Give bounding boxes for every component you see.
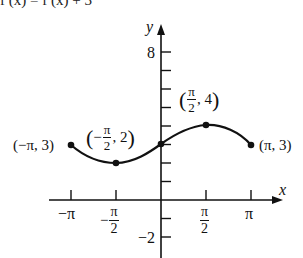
frac-den: 2 bbox=[111, 221, 118, 236]
point-value: , 2 bbox=[112, 129, 127, 145]
point-pi bbox=[248, 142, 255, 149]
y-tick-label-8: 8 bbox=[147, 45, 155, 61]
frac-num: π bbox=[187, 85, 196, 100]
point-zero bbox=[158, 141, 165, 148]
annotation-neg-pi-3: (−π, 3) bbox=[13, 138, 54, 153]
point-neg-half-pi bbox=[113, 160, 120, 167]
annotation-pi-3: (π, 3) bbox=[259, 138, 292, 153]
x-axis-label: x bbox=[279, 182, 286, 198]
chart-plot bbox=[0, 0, 303, 258]
frac-num: π bbox=[200, 205, 209, 221]
point-half-pi bbox=[203, 122, 210, 129]
y-axis-label: y bbox=[146, 19, 153, 35]
frac-num: π bbox=[109, 205, 118, 221]
annotation-half-pi-4: (π2, 4) bbox=[179, 85, 219, 114]
y-axis-arrow-icon bbox=[157, 24, 165, 35]
x-tick-label-pi: π bbox=[245, 206, 253, 222]
x-tick-label-neg-half-pi: −π2 bbox=[100, 205, 120, 236]
frac-den: 2 bbox=[188, 100, 195, 114]
annotation-neg-half-pi-2: (−π2, 2) bbox=[86, 123, 135, 152]
point-neg-pi bbox=[68, 142, 75, 149]
minus-sign: − bbox=[93, 129, 101, 145]
y-tick-label-neg2: −2 bbox=[138, 230, 155, 246]
frac-den: 2 bbox=[201, 221, 208, 236]
frac-num: π bbox=[103, 123, 112, 138]
minus-sign: − bbox=[100, 212, 108, 228]
point-value: , 4 bbox=[197, 91, 212, 107]
x-tick-label-half-pi: π2 bbox=[199, 205, 210, 236]
frac-den: 2 bbox=[104, 138, 111, 152]
x-tick-label-neg-pi: −π bbox=[58, 206, 75, 222]
